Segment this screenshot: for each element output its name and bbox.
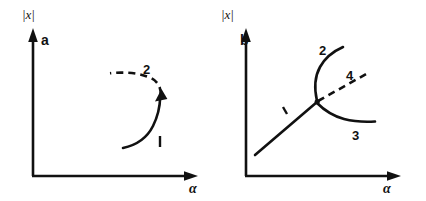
x-axis-label-b: α — [383, 182, 391, 196]
y-axis-label-b: |x| — [221, 8, 234, 21]
panel-label-a: a — [41, 33, 49, 47]
branch-curve-1-a — [123, 97, 160, 148]
y-axis-arrowhead-a — [28, 28, 38, 42]
panel-a: |x| a α 2 — [0, 0, 213, 201]
x-axis-arrowhead-a — [184, 171, 198, 181]
panel-a-axes — [28, 28, 198, 181]
panel-label-b: b — [240, 33, 249, 47]
panel-b: |x| b α 2 3 4 — [213, 0, 426, 201]
branch-label-2-b: 2 — [319, 44, 326, 57]
branch-curve-4-b — [318, 73, 368, 101]
y-axis-label-a: |x| — [22, 8, 35, 21]
branch-label-2-a: 2 — [143, 63, 150, 76]
branch-label-tick-1-b — [283, 107, 287, 114]
x-axis-arrowhead-b — [387, 171, 401, 181]
x-axis-label-a: α — [189, 182, 197, 196]
branch-curve-3-b — [317, 103, 375, 122]
branch-point-dot-b — [315, 99, 320, 104]
branch-label-3-b: 3 — [352, 129, 359, 142]
bifurcation-figure: |x| a α 2 |x| — [0, 0, 426, 201]
branch-curve-2-a — [110, 73, 161, 94]
branch-label-4-b: 4 — [346, 69, 353, 82]
panel-a-plot — [0, 0, 213, 201]
panel-b-plot — [213, 0, 426, 201]
